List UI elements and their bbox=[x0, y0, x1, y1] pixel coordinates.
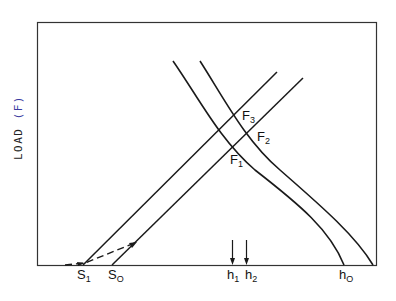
label-s1-sub: 1 bbox=[86, 274, 91, 284]
label-h0: hO bbox=[339, 268, 353, 284]
label-h1-sub: 1 bbox=[234, 274, 239, 284]
label-s1: S1 bbox=[77, 268, 91, 284]
spring-line-s1 bbox=[83, 72, 277, 265]
label-f3: F3 bbox=[242, 109, 255, 125]
label-h1: h1 bbox=[227, 268, 239, 284]
label-f1-sub: 1 bbox=[238, 159, 243, 169]
label-f2-sub: 2 bbox=[265, 136, 270, 146]
plot-frame bbox=[38, 23, 377, 266]
curve-outer bbox=[200, 61, 373, 265]
label-f3-sub: 3 bbox=[250, 115, 255, 125]
label-f1: F1 bbox=[230, 153, 243, 169]
dashed-transition-line bbox=[65, 242, 137, 265]
label-f1-base: F bbox=[230, 152, 238, 167]
label-h0-sub: O bbox=[346, 274, 353, 284]
label-s0-sub: O bbox=[117, 274, 124, 284]
label-f2: F2 bbox=[257, 130, 270, 146]
curve-h0 bbox=[173, 61, 344, 265]
label-f3-base: F bbox=[242, 108, 250, 123]
arrow-h2-icon bbox=[244, 258, 249, 265]
label-h2-sub: 2 bbox=[252, 274, 257, 284]
label-s0: SO bbox=[108, 268, 124, 284]
arrow-h1-icon bbox=[230, 258, 235, 265]
label-s0-base: S bbox=[108, 267, 117, 282]
label-s1-base: S bbox=[77, 267, 86, 282]
label-f2-base: F bbox=[257, 129, 265, 144]
spring-line-s0 bbox=[112, 78, 303, 265]
load-deflection-diagram bbox=[0, 0, 396, 301]
label-h2: h2 bbox=[245, 268, 257, 284]
